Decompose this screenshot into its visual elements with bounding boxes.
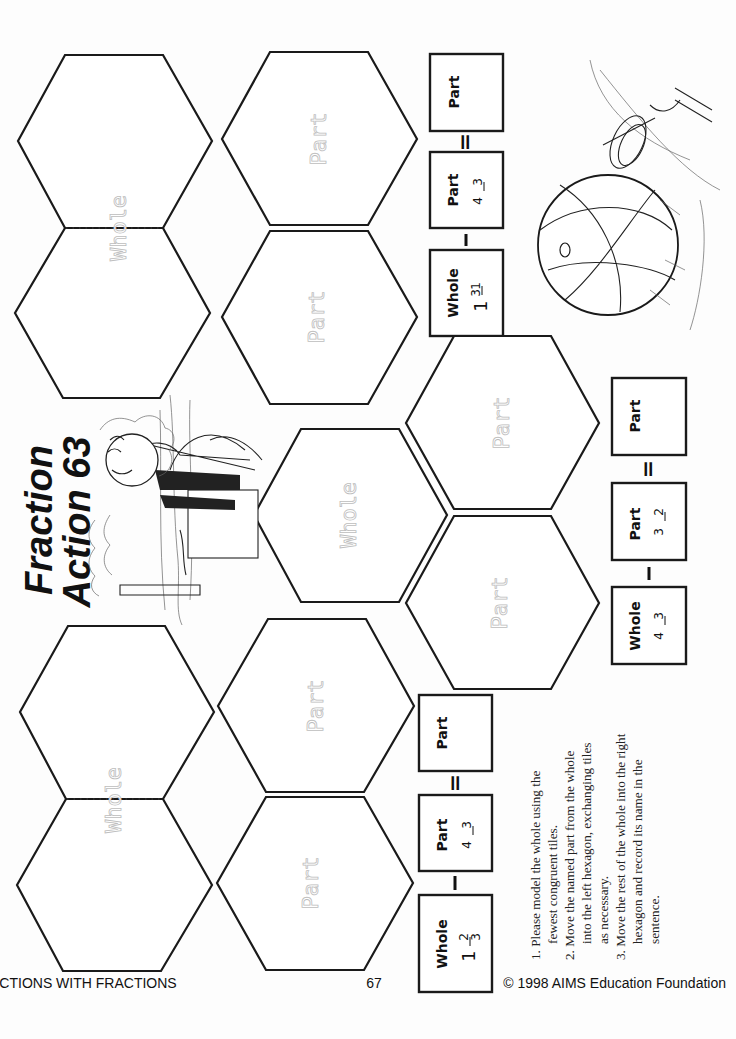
svg-text:Part: Part [446, 75, 462, 108]
page-title: Fraction Action 63 [18, 436, 98, 608]
problem-3-result-box[interactable]: Part [430, 54, 503, 131]
equals-sign: = [452, 133, 477, 151]
problem-3-whole-box: Whole 1 1 3 [430, 250, 503, 336]
problem-1-part-box: Part 3 4 [419, 795, 492, 871]
problem-1-equation: Part = Part 3 4 Whole 1 2 3 [419, 695, 492, 992]
problem-2-part-box: Part 2 3 [612, 483, 686, 560]
instruction-line: 1. Please model the whole using the [528, 771, 543, 960]
footer-page-number: 67 [366, 975, 382, 991]
problem-1-part-hexagon-lower[interactable]: Part [217, 797, 413, 970]
problem-2-part-label-lower: Part [487, 577, 512, 630]
problem-3-whole-label: Whole [106, 195, 131, 261]
svg-text:3: 3 [652, 612, 666, 620]
instructions: 1. Please model the whole using the fewe… [528, 733, 662, 960]
svg-text:Whole: Whole [445, 268, 461, 317]
problem-3-part-label-lower: Part [304, 291, 329, 344]
problem-2-part-hexagon-upper[interactable]: Part [406, 336, 599, 509]
problem-2-part-label-upper: Part [489, 397, 514, 450]
instruction-line: sentence. [647, 895, 662, 944]
svg-text:Whole: Whole [434, 919, 450, 968]
svg-text:Part: Part [627, 507, 643, 540]
svg-text:Part: Part [434, 818, 450, 851]
problem-2-whole-label: Whole [336, 482, 361, 548]
problem-1-whole-box: Whole 1 2 3 [419, 895, 492, 992]
problem-3-part-label-upper: Part [306, 113, 331, 166]
svg-text:Part: Part [434, 716, 450, 749]
problem-2-result-box[interactable]: Part [612, 378, 686, 455]
problem-2-whole-hexagon[interactable]: Whole [254, 429, 447, 602]
problem-3-equation: Part = Part 3 4 Whole 1 1 3 [430, 54, 503, 336]
page-footer: ACTIONS WITH FRACTIONS 67 © 1998 AIMS Ed… [0, 975, 726, 991]
instruction-line: hexagon and record its name in the [630, 759, 645, 944]
problem-1-part-hexagon-upper[interactable]: Part [218, 619, 414, 792]
svg-text:4: 4 [460, 841, 474, 849]
instruction-line: 3. Move the rest of the whole into the r… [613, 733, 628, 960]
problem-3-whole-hexagons[interactable]: Whole [15, 55, 212, 398]
svg-text:1: 1 [471, 301, 491, 312]
problem-2-whole-box: Whole 3 4 [612, 587, 686, 664]
svg-text:3: 3 [469, 933, 483, 941]
svg-text:3: 3 [652, 528, 666, 536]
footer-copyright: © 1998 AIMS Education Foundation [503, 975, 726, 991]
svg-text:3: 3 [469, 289, 483, 297]
equals-sign: = [442, 774, 467, 792]
instruction-line: into the left hexagon, exchanging tiles [579, 743, 594, 944]
problem-3-part-hexagon-lower[interactable]: Part [222, 231, 417, 404]
svg-text:1: 1 [459, 951, 479, 962]
svg-text:Part: Part [627, 399, 643, 432]
svg-text:3: 3 [471, 178, 485, 186]
problem-3-part-box: Part 3 4 [430, 152, 503, 228]
problem-1-part-label-upper: Part [303, 680, 328, 733]
problem-3-part-hexagon-upper[interactable]: Part [222, 52, 417, 225]
sunbather-on-towel-icon [89, 395, 262, 625]
title-line-1: Fraction [18, 445, 60, 595]
instruction-line: as necessary. [596, 876, 611, 944]
svg-text:2: 2 [652, 508, 666, 516]
problem-1-part-label-lower: Part [298, 857, 323, 910]
problem-1-result-box[interactable]: Part [419, 695, 492, 771]
problem-2-equation: Part = Part 2 3 Whole 3 4 [612, 378, 686, 664]
svg-text:4: 4 [471, 197, 485, 205]
equals-sign: = [635, 460, 660, 478]
svg-text:Whole: Whole [627, 601, 643, 650]
footer-book-title: ACTIONS WITH FRACTIONS [0, 975, 177, 991]
beach-ball-and-pail-icon [538, 60, 720, 330]
svg-text:1: 1 [469, 282, 483, 290]
problem-1-whole-hexagons[interactable]: Whole [17, 626, 214, 971]
problem-2-part-hexagon-lower[interactable]: Part [406, 516, 599, 689]
problem-1-whole-label: Whole [101, 767, 126, 833]
instruction-line: 2. Move the named part from the whole [562, 750, 577, 960]
svg-text:3: 3 [460, 821, 474, 829]
worksheet-page: Whole Part Part Part = Part 3 4 Whole 1 … [0, 0, 736, 1039]
svg-text:4: 4 [652, 632, 666, 640]
svg-text:Part: Part [445, 173, 461, 206]
instruction-line: fewest congruent tiles. [545, 825, 560, 944]
